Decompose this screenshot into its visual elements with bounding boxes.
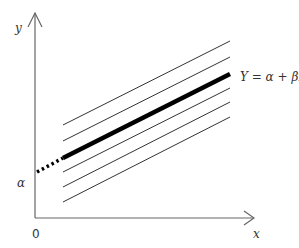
y-axis-label: y: [15, 21, 22, 35]
regression-diagram: [0, 0, 299, 248]
origin-label: 0: [32, 227, 40, 241]
parallel-line: [63, 41, 230, 125]
regression-line: [63, 74, 230, 158]
intercept-extension: [37, 158, 63, 172]
regression-equation-label: Y = α + βx: [240, 70, 299, 84]
intercept-label: α: [17, 176, 25, 190]
parallel-line: [63, 57, 230, 141]
x-axis-label: x: [253, 227, 260, 241]
